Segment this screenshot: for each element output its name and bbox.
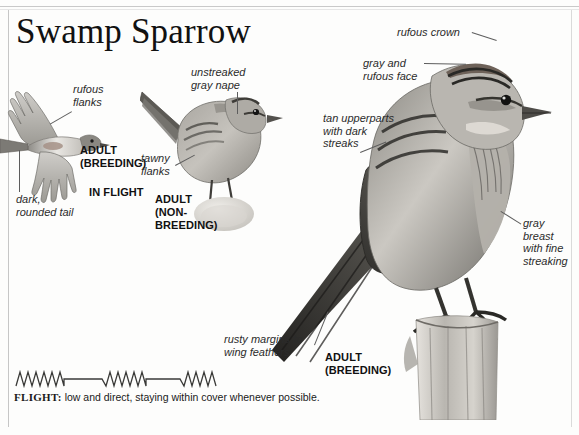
caption-in-flight: IN FLIGHT <box>89 186 144 199</box>
label-unstreaked-gray-nape: unstreaked gray nape <box>191 66 245 91</box>
label-gray-breast: gray breast with fine streaking <box>523 217 568 267</box>
label-tan-upperparts: tan upperparts with dark streaks <box>323 112 394 150</box>
caption-adult-breeding-perched: ADULT (BREEDING) <box>325 351 391 377</box>
label-rufous-flanks: rufous flanks <box>73 83 104 108</box>
flight-text: low and direct, staying within cover whe… <box>62 391 320 403</box>
label-rufous-crown: rufous crown <box>397 26 460 39</box>
leader-dark-rounded-tail <box>19 150 20 192</box>
page-title: Swamp Sparrow <box>16 12 251 52</box>
label-tawny-flanks: tawny flanks <box>141 152 170 177</box>
caption-adult-breeding-flight: ADULT (BREEDING) <box>80 144 146 170</box>
label-rusty-margins: rusty margins to wing feathers <box>224 333 302 358</box>
label-dark-rounded-tail: dark, rounded tail <box>16 193 74 218</box>
label-gray-and-rufous-face: gray and rufous face <box>363 57 417 82</box>
field-guide-page: Swamp Sparrow rufous flanks <box>0 0 579 435</box>
flight-heading: FLIGHT: <box>14 391 62 403</box>
page-top-rule <box>0 6 579 7</box>
page-right-rule <box>571 10 572 427</box>
page-top-rule-secondary <box>0 9 579 10</box>
leader-unstreaked-gray-nape <box>237 92 238 114</box>
caption-adult-nonbreeding: ADULT (NON- BREEDING) <box>155 193 218 232</box>
flight-description: FLIGHT: low and direct, staying within c… <box>14 391 344 405</box>
flight-pattern-diagram <box>14 366 224 392</box>
